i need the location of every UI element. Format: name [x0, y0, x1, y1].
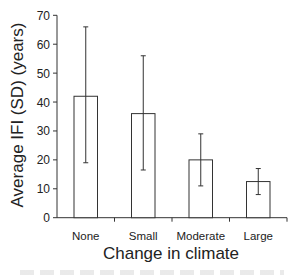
y-tick-label: 20 — [37, 153, 51, 167]
x-axis-title: Change in climate — [103, 244, 239, 263]
bar-none — [74, 27, 98, 218]
y-tick-label: 50 — [37, 67, 51, 81]
y-axis: 010203040506070 — [37, 9, 57, 225]
bar-small — [132, 56, 156, 218]
y-tick-label: 0 — [43, 211, 50, 225]
x-axis: NoneSmallModerateLarge — [57, 218, 287, 242]
y-tick-label: 70 — [37, 9, 51, 23]
bar-large — [247, 169, 271, 218]
y-axis-title: Average IFI (SD) (years) — [8, 23, 27, 208]
y-tick-label: 10 — [37, 182, 51, 196]
x-category-label: None — [72, 230, 100, 242]
cropped-caption — [20, 270, 284, 275]
bar-chart: 010203040506070 NoneSmallModerateLarge A… — [0, 0, 294, 277]
bar-moderate — [189, 134, 213, 218]
x-category-label: Small — [129, 230, 158, 242]
y-tick-label: 40 — [37, 96, 51, 110]
x-category-label: Large — [244, 230, 273, 242]
y-tick-label: 60 — [37, 38, 51, 52]
x-category-label: Moderate — [176, 230, 225, 242]
bars — [74, 27, 270, 218]
y-tick-label: 30 — [37, 124, 51, 138]
